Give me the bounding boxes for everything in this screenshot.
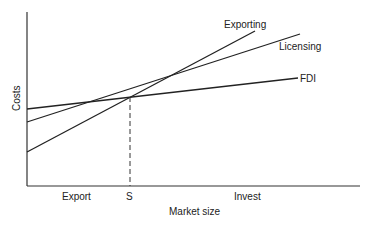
y-axis-label: Costs xyxy=(11,85,22,111)
licensing-label: Licensing xyxy=(279,41,321,52)
exporting-line xyxy=(27,31,255,152)
exporting-label: Exporting xyxy=(224,19,266,30)
x-axis-label: Market size xyxy=(169,206,221,217)
fdi-line xyxy=(27,78,298,109)
fdi-label: FDI xyxy=(300,73,316,84)
tick-s: S xyxy=(126,191,133,202)
cost-market-size-diagram: Exporting Licensing FDI Export S Invest … xyxy=(0,0,370,225)
tick-export: Export xyxy=(62,191,91,202)
licensing-line xyxy=(27,34,300,122)
tick-invest: Invest xyxy=(234,191,261,202)
